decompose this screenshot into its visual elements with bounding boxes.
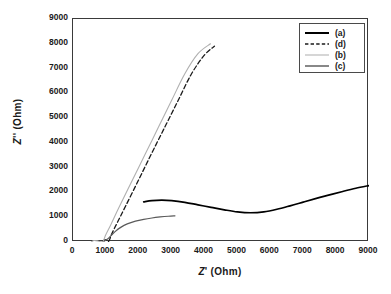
- y-tick-label: 6000: [24, 87, 68, 96]
- y-tick-label: 9000: [24, 13, 68, 22]
- impedance-nyquist-chart: 0100020003000400050006000700080009000 Z'…: [0, 0, 391, 294]
- y-tick-label: 8000: [24, 38, 68, 47]
- y-tick-label: 1000: [24, 211, 68, 220]
- legend-line-swatch: [304, 28, 330, 38]
- y-axis-title: Z'' (Ohm): [12, 67, 23, 177]
- y-tick-label: 0: [24, 236, 68, 245]
- legend-label: (a): [335, 28, 345, 38]
- legend-label: (c): [335, 61, 345, 71]
- legend-item-d: (d): [304, 38, 360, 49]
- y-tick-label: 4000: [24, 137, 68, 146]
- series-line-b: [91, 44, 210, 242]
- y-tick-label: 5000: [24, 112, 68, 121]
- legend-label: (d): [335, 39, 346, 49]
- legend-item-b: (b): [304, 49, 360, 60]
- legend-item-c: (c): [304, 60, 360, 71]
- legend-item-a: (a): [304, 27, 360, 38]
- y-tick-label: 2000: [24, 186, 68, 195]
- y-tick-label: 3000: [24, 162, 68, 171]
- x-axis-title: Z' (Ohm): [72, 266, 368, 277]
- x-axis-tick-labels: 0100020003000400050006000700080009000: [0, 246, 391, 260]
- series-line-d: [103, 46, 215, 241]
- legend-label: (b): [335, 50, 346, 60]
- legend-line-swatch: [304, 50, 330, 60]
- legend-line-swatch: [304, 39, 330, 49]
- series-line-a: [144, 186, 369, 213]
- y-tick-label: 7000: [24, 63, 68, 72]
- legend-line-swatch: [304, 61, 330, 71]
- chart-legend: (a)(d)(b)(c): [299, 23, 365, 73]
- x-tick-label: 9000: [348, 246, 388, 255]
